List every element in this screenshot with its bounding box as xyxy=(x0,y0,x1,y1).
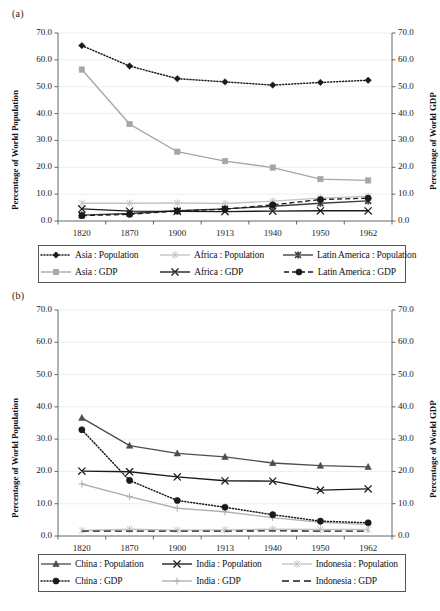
legend-label: Indonesia : Population xyxy=(314,559,398,569)
legend-item[interactable]: India : Population xyxy=(160,558,279,570)
y-axis-tick-label-right: 40.0 xyxy=(398,108,428,118)
legend-item[interactable]: Indonesia : GDP xyxy=(280,575,405,587)
legend-row: China : PopulationIndia : PopulationIndo… xyxy=(39,555,405,572)
y-axis-tick-label-left: 60.0 xyxy=(22,336,52,346)
series-indonesia-population xyxy=(79,526,371,534)
legend-key-icon xyxy=(281,249,315,261)
legend-row: Asia : PopulationAfrica : PopulationLati… xyxy=(39,246,405,263)
y-axis-tick-label-left: 20.0 xyxy=(22,465,52,475)
panel-b-legend: China : PopulationIndia : PopulationIndo… xyxy=(38,554,406,592)
y-axis-tick-label-right: 60.0 xyxy=(398,336,428,346)
y-axis-tick-label-left: 50.0 xyxy=(22,81,52,91)
legend-key xyxy=(158,249,192,261)
legend-key xyxy=(39,266,73,278)
legend-key-icon xyxy=(280,575,314,587)
y-axis-tick-label-right: 70.0 xyxy=(398,304,428,314)
legend-item[interactable]: Asia : Population xyxy=(39,249,158,261)
legend-item[interactable]: China : Population xyxy=(39,558,160,570)
legend-key xyxy=(160,575,194,587)
chart-panel-b: (b) Percentage of World Population Perce… xyxy=(0,288,440,611)
legend-item[interactable]: India : GDP xyxy=(160,575,279,587)
y-axis-tick-label-right: 30.0 xyxy=(398,433,428,443)
legend-key xyxy=(281,249,315,261)
legend-item[interactable]: China : GDP xyxy=(39,575,160,587)
y-axis-tick-label-right: 20.0 xyxy=(398,161,428,171)
y-axis-tick-label-left: 40.0 xyxy=(22,108,52,118)
legend-key-icon xyxy=(39,266,73,278)
y-axis-tick-label-right: 50.0 xyxy=(398,81,428,91)
legend-label: China : Population xyxy=(73,559,144,569)
legend-item[interactable]: Latin America : Population xyxy=(281,249,405,261)
legend-key-icon xyxy=(39,575,73,587)
legend-label: India : Population xyxy=(194,559,261,569)
x-axis-tick-label: 1962 xyxy=(346,228,390,238)
legend-label: India : GDP xyxy=(194,576,240,586)
x-axis-tick-label: 1940 xyxy=(251,543,295,553)
legend-item[interactable]: Latin America : GDP xyxy=(282,266,405,278)
y-axis-tick-label-left: 70.0 xyxy=(22,304,52,314)
x-axis-tick-label: 1940 xyxy=(251,228,295,238)
legend-key-icon xyxy=(280,558,314,570)
legend-key-icon xyxy=(158,249,192,261)
y-axis-tick-label-left: 20.0 xyxy=(22,161,52,171)
y-axis-tick-label-right: 60.0 xyxy=(398,54,428,64)
figure-container: (a) Percentage of World Population Perce… xyxy=(0,0,440,611)
series-africa-population xyxy=(79,193,371,207)
series-china-population xyxy=(79,414,372,469)
x-axis-tick-label: 1870 xyxy=(108,228,152,238)
y-axis-tick-label-right: 20.0 xyxy=(398,465,428,475)
y-axis-tick-label-right: 50.0 xyxy=(398,369,428,379)
x-axis-tick-label: 1913 xyxy=(203,228,247,238)
legend-label: Asia : GDP xyxy=(73,267,117,277)
x-axis-tick-label: 1900 xyxy=(155,543,199,553)
y-axis-tick-label-right: 10.0 xyxy=(398,188,428,198)
legend-item[interactable]: Indonesia : Population xyxy=(280,558,405,570)
y-axis-tick-label-right: 40.0 xyxy=(398,401,428,411)
legend-key xyxy=(158,266,192,278)
y-axis-tick-label-right: 70.0 xyxy=(398,27,428,37)
legend-key-icon xyxy=(282,266,316,278)
legend-key-icon xyxy=(158,266,192,278)
series-asia-population xyxy=(79,42,372,88)
legend-item[interactable]: Asia : GDP xyxy=(39,266,158,278)
legend-label: Latin America : GDP xyxy=(316,267,396,277)
y-axis-tick-label-left: 0.0 xyxy=(22,215,52,225)
legend-label: China : GDP xyxy=(73,576,122,586)
y-axis-tick-label-left: 30.0 xyxy=(22,134,52,144)
legend-key-icon xyxy=(160,558,194,570)
x-axis-tick-label: 1913 xyxy=(203,543,247,553)
legend-key xyxy=(39,558,73,570)
legend-key-icon xyxy=(160,575,194,587)
legend-item[interactable]: Africa : Population xyxy=(158,249,281,261)
y-axis-tick-label-left: 30.0 xyxy=(22,433,52,443)
legend-label: Indonesia : GDP xyxy=(314,576,377,586)
y-axis-tick-label-left: 60.0 xyxy=(22,54,52,64)
legend-key xyxy=(39,249,73,261)
y-axis-tick-label-left: 50.0 xyxy=(22,369,52,379)
legend-label: Africa : Population xyxy=(192,250,264,260)
y-axis-tick-label-right: 30.0 xyxy=(398,134,428,144)
legend-key-icon xyxy=(39,249,73,261)
chart-panel-a: (a) Percentage of World Population Perce… xyxy=(0,0,440,288)
y-axis-tick-label-left: 0.0 xyxy=(22,530,52,540)
legend-row: Asia : GDPAfrica : GDPLatin America : GD… xyxy=(39,263,405,280)
x-axis-tick-label: 1820 xyxy=(60,228,104,238)
panel-a-legend: Asia : PopulationAfrica : PopulationLati… xyxy=(38,245,406,283)
x-axis-tick-label: 1962 xyxy=(346,543,390,553)
y-axis-tick-label-left: 40.0 xyxy=(22,401,52,411)
legend-label: Africa : GDP xyxy=(192,267,243,277)
legend-label: Asia : Population xyxy=(73,250,138,260)
y-axis-tick-label-left: 10.0 xyxy=(22,498,52,508)
legend-key xyxy=(282,266,316,278)
y-axis-tick-label-right: 10.0 xyxy=(398,498,428,508)
legend-item[interactable]: Africa : GDP xyxy=(158,266,281,278)
x-axis-tick-label: 1820 xyxy=(60,543,104,553)
legend-row: China : GDPIndia : GDPIndonesia : GDP xyxy=(39,572,405,589)
y-axis-tick-label-right: 0.0 xyxy=(398,215,428,225)
legend-key xyxy=(39,575,73,587)
legend-label: Latin America : Population xyxy=(315,250,416,260)
x-axis-tick-label: 1870 xyxy=(108,543,152,553)
series-latin-america-gdp xyxy=(79,195,371,219)
legend-key xyxy=(160,558,194,570)
x-axis-tick-label: 1900 xyxy=(155,228,199,238)
